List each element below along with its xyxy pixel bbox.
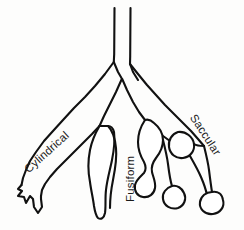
saccular-right-stalk-inner bbox=[190, 156, 207, 195]
carina-left bbox=[100, 79, 122, 126]
label-fusiform: Fusiform bbox=[124, 156, 136, 202]
saccular-bulb-center bbox=[163, 186, 185, 209]
carina-right bbox=[122, 79, 145, 120]
trunk-left-wall bbox=[114, 8, 122, 78]
saccular-sac-mid bbox=[169, 132, 194, 158]
saccular-bulb-right bbox=[200, 192, 224, 214]
saccular-sac-left bbox=[135, 120, 163, 198]
airway-tree-illustration bbox=[0, 0, 244, 230]
cylindrical-terminal-tufts bbox=[18, 185, 42, 213]
bronchiectasis-diagram: Cylindrical Fusiform Saccular bbox=[0, 0, 244, 230]
